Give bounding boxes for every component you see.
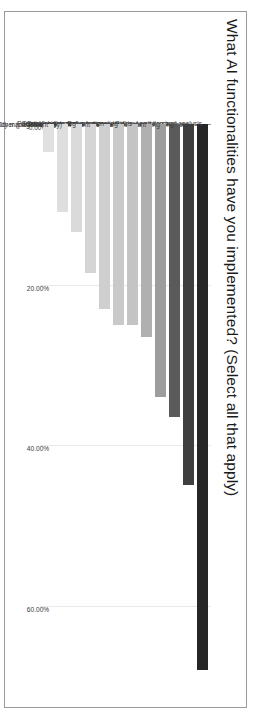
bar [197, 124, 208, 670]
bar-row: Lead scoring [169, 124, 180, 686]
bar [71, 124, 82, 232]
bar [57, 124, 68, 212]
chart-rotated-canvas: What AI functionalities have you impleme… [4, 11, 247, 708]
bar-row: Territory balancing [71, 124, 82, 686]
bar-row: Chatbots [183, 124, 194, 686]
bar [113, 124, 124, 325]
bar [169, 124, 180, 417]
bar-row: Call transcription and analysis [197, 124, 208, 686]
bar-series: Call transcription and analysisChatbotsL… [40, 124, 211, 686]
bar [141, 124, 152, 337]
bar [99, 124, 110, 309]
chart-title: What AI functionalities have you impleme… [219, 19, 241, 679]
bar [183, 124, 194, 485]
chart-frame: What AI functionalities have you impleme… [4, 11, 247, 708]
bar-row: Deal insights and recommendations [127, 124, 138, 686]
bar-row: Support AI Agent [141, 124, 152, 686]
bar-row: Prospecting AI Agent [85, 124, 96, 686]
bar-row: Sales forecasting [113, 124, 124, 686]
plot-area: 0.00%20.00%40.00%60.00% Call transcripti… [40, 124, 211, 686]
bar-row: Other (please specify) [57, 124, 68, 686]
bar [127, 124, 138, 325]
bar [155, 124, 166, 397]
bar [85, 124, 96, 273]
bar-row: CRM policy management [43, 124, 54, 686]
bar [43, 124, 54, 152]
category-label: CRM policy management [0, 121, 49, 128]
bar-row: Personalized content creation [99, 124, 110, 686]
bar-row: Automated lead routing [155, 124, 166, 686]
